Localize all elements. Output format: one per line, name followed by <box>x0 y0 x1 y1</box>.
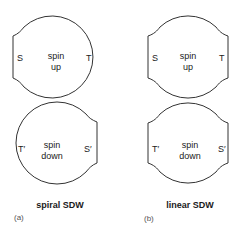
caption-a: spiral SDW <box>36 200 84 210</box>
panel-label-a: (a) <box>14 213 24 222</box>
label-b-bottom-left: T′ <box>152 144 159 154</box>
label-a-bottom-center-2: down <box>41 151 63 161</box>
label-b-top-right: T <box>219 53 225 63</box>
label-a-bottom-center-1: spin <box>44 140 61 150</box>
label-a-top-left: S <box>17 53 23 63</box>
label-b-bottom-right: S′ <box>218 144 226 154</box>
label-a-top-center-1: spin <box>48 51 65 61</box>
fermi-surface-diagram <box>0 0 236 231</box>
label-b-bottom-center-1: spin <box>182 140 199 150</box>
label-a-bottom-left: T′ <box>18 144 25 154</box>
label-b-top-center-2: up <box>183 62 193 72</box>
label-a-top-center-2: up <box>51 62 61 72</box>
label-b-top-left: S <box>152 53 158 63</box>
label-b-bottom-center-2: down <box>179 151 201 161</box>
label-a-top-right: T <box>86 53 92 63</box>
label-b-top-center-1: spin <box>180 51 197 61</box>
panel-label-b: (b) <box>144 214 154 223</box>
caption-b: linear SDW <box>166 200 214 210</box>
label-a-bottom-right: S′ <box>84 144 92 154</box>
